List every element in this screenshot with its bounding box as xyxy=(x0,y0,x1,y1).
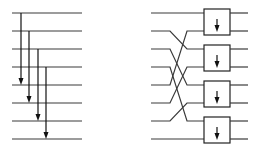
shuffle-wire-6 xyxy=(151,103,204,121)
comparator-box-2 xyxy=(204,81,248,107)
right-shuffle-network xyxy=(151,9,248,143)
comparator-box-3 xyxy=(204,117,248,143)
comparator-box-0 xyxy=(204,9,248,35)
arrow-head-icon xyxy=(44,132,49,139)
comparator-box-1 xyxy=(204,45,248,71)
left-comparator-network xyxy=(12,13,82,139)
arrow-head-icon xyxy=(36,114,41,121)
arrow-head-icon xyxy=(19,78,24,85)
shuffle-wire-1 xyxy=(151,31,204,49)
arrow-head-icon xyxy=(27,96,32,103)
sorting-network-diagram xyxy=(0,0,261,154)
